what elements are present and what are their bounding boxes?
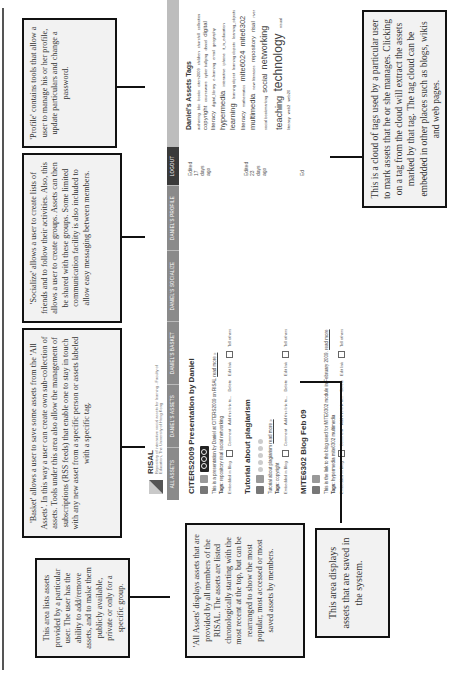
tag-cloud-item[interactable]: networking bbox=[259, 26, 269, 70]
annotation-all-assets: 'All Assets' displays assets that are pr… bbox=[185, 523, 305, 658]
nav-daniels-profile[interactable]: DANIEL'S PROFILE bbox=[167, 185, 179, 250]
comment-icon[interactable] bbox=[282, 450, 289, 457]
add-link-to-link[interactable]: Add this link to... bbox=[227, 396, 232, 425]
tell-others-link[interactable]: Tell others bbox=[227, 329, 232, 347]
edited-timestamp: Edited 23 days ago bbox=[243, 162, 267, 176]
tag-cloud-item[interactable]: repository bbox=[250, 34, 256, 62]
rating-stars[interactable] bbox=[258, 439, 263, 472]
annotation-text: 'Basket' allows a user to save some asse… bbox=[29, 336, 91, 529]
tag-cloud-item[interactable]: teaching bbox=[274, 93, 284, 130]
tag-cloud-item[interactable]: copyright bbox=[202, 104, 208, 130]
tell-others-icon[interactable] bbox=[338, 351, 345, 358]
tag-cloud-item[interactable]: e-learning bbox=[211, 62, 216, 81]
comment-link[interactable]: Comment bbox=[227, 429, 232, 446]
tag-cloud-item[interactable]: email bbox=[211, 49, 216, 60]
tell-others-icon[interactable] bbox=[226, 351, 233, 358]
document-icon bbox=[256, 475, 264, 483]
tags-links[interactable]: repository risal social networking bbox=[219, 416, 224, 481]
asset-title-link[interactable]: MITE6302 Blog Feb 09 bbox=[299, 194, 308, 494]
document-icon bbox=[200, 475, 208, 483]
tag-cloud-item[interactable]: citers2009 bbox=[196, 67, 201, 87]
tag-cloud-item[interactable]: social bookmarking bbox=[263, 95, 268, 130]
annotation-text: 'Socialize' allows a user to create list… bbox=[29, 162, 91, 314]
edit-link[interactable]: Edit link bbox=[283, 362, 288, 376]
tag-cloud-item[interactable]: hypermedia bbox=[218, 89, 227, 130]
nav-daniels-socialize[interactable]: DANIEL'S SOCIALIZE bbox=[167, 250, 179, 321]
asset-tags: Tags: repository risal social networking bbox=[219, 194, 224, 494]
description-text: Tutorial about plagiarism bbox=[268, 445, 273, 494]
main-nav: ALL ASSETS DANIEL'S ASSETS DANIEL'S BASK… bbox=[167, 0, 179, 500]
tag-cloud-item[interactable]: social bbox=[260, 71, 269, 92]
tell-others-icon[interactable] bbox=[282, 351, 289, 358]
tag-cloud-item[interactable]: daniel bbox=[203, 39, 208, 51]
tag-cloud-item[interactable]: interactive bbox=[221, 67, 226, 86]
tags-links[interactable]: copyright bbox=[275, 463, 280, 481]
asset-list: CITERS2009 Presentation by Daniel This i… bbox=[187, 194, 355, 494]
nav-daniels-assets[interactable]: DANIEL'S ASSETS bbox=[167, 384, 179, 447]
tag-cloud-item[interactable]: mathematics bbox=[241, 84, 246, 108]
edit-link[interactable]: Edit link bbox=[227, 362, 232, 376]
tag-cloud-item[interactable]: new literacies bbox=[251, 64, 256, 89]
nav-logout[interactable]: LOGOUT bbox=[167, 146, 179, 185]
tag-cloud-item[interactable]: literacy bbox=[240, 109, 246, 130]
add-link-to-link[interactable]: Add this link to... bbox=[283, 396, 288, 425]
asset-title-link[interactable]: CITERS2009 Presentation by Daniel bbox=[187, 194, 196, 494]
tag-cloud-item[interactable]: mite6024 bbox=[238, 49, 247, 82]
tell-others-link[interactable]: Tell others bbox=[339, 329, 344, 347]
read-more-link[interactable]: read more » bbox=[212, 353, 217, 377]
tag-cloud-item[interactable]: web2 bbox=[286, 104, 291, 115]
tag-cloud-item[interactable]: digital_library bbox=[211, 83, 216, 108]
tell-others-link[interactable]: Tell others bbox=[283, 329, 288, 347]
annotation-text: 'Profile' contains tools that allow a us… bbox=[29, 27, 70, 140]
edit-link[interactable]: Edit link bbox=[339, 362, 344, 376]
tag-cloud-item[interactable]: children bbox=[196, 50, 201, 65]
tag-cloud-item[interactable]: churchill bbox=[196, 32, 201, 48]
tags-label: Tags: bbox=[331, 482, 336, 494]
person-icon bbox=[256, 486, 264, 494]
delete-link[interactable]: Delete bbox=[283, 380, 288, 392]
asset-title-link[interactable]: Tutorial about plagiarism bbox=[243, 194, 252, 494]
tag-cloud-item[interactable]: mite6302 bbox=[238, 16, 247, 47]
embedded-in-blog-link[interactable]: Embedded in Blog bbox=[227, 461, 232, 494]
annotated-figure: This area lists assets provided by a par… bbox=[0, 0, 455, 678]
annotation-text: This is a cloud of tags used by a partic… bbox=[370, 19, 441, 199]
asset-icons bbox=[199, 194, 209, 494]
tag-cloud-item[interactable]: bbc bbox=[196, 103, 201, 111]
tag-cloud-item[interactable]: learning objects bbox=[231, 41, 236, 70]
tag-cloud-item[interactable]: cyber bullying bbox=[203, 53, 208, 79]
tag-cloud-item[interactable]: web20 bbox=[286, 90, 291, 102]
tag-cloud-item[interactable]: iphone bbox=[221, 52, 226, 65]
tag-cloud-item[interactable]: it_in_education bbox=[221, 23, 226, 50]
asset-item: CITERS2009 Presentation by Daniel This i… bbox=[187, 194, 233, 494]
document-icon bbox=[312, 475, 320, 483]
tag-cloud-item[interactable]: learning_objects bbox=[231, 10, 236, 39]
nav-daniels-basket[interactable]: DANIEL'S BASKET bbox=[167, 321, 179, 384]
tag-cloud-item[interactable]: river bbox=[251, 10, 256, 18]
embedded-in-blog-link[interactable]: Embedded in Blog bbox=[283, 461, 288, 494]
logo-subtitle: Repository of interactive social assets … bbox=[155, 354, 164, 474]
tag-cloud-item[interactable]: collection bbox=[196, 14, 201, 31]
tags-links[interactable]: hypermedia mite6302 multimedia bbox=[331, 415, 336, 481]
nav-all-assets[interactable]: ALL ASSETS bbox=[167, 447, 179, 500]
delete-link[interactable]: Delete bbox=[227, 380, 232, 392]
edited-timestamp: Ed bbox=[299, 170, 305, 176]
annotation-saved-area: This area displays assets that are saved… bbox=[315, 528, 390, 638]
tag-cloud-item[interactable]: geography bbox=[211, 28, 216, 47]
comment-icon[interactable] bbox=[226, 450, 233, 457]
tag-cloud-item[interactable]: learning object bbox=[231, 72, 236, 99]
asset-icons bbox=[311, 194, 321, 494]
annotation-text: 'All Assets' displays assets that are pr… bbox=[192, 534, 275, 647]
read-more-link[interactable]: read more » bbox=[268, 419, 273, 443]
tag-cloud-title: Daniel's Assets Tags bbox=[185, 5, 192, 130]
tag-cloud-item[interactable]: risal bbox=[250, 20, 256, 33]
tag-cloud-item[interactable]: learning bbox=[228, 101, 237, 130]
tag-cloud-item[interactable]: technology bbox=[271, 30, 285, 91]
comment-link[interactable]: Comment bbox=[283, 429, 288, 446]
tag-cloud-item[interactable]: courseware bbox=[203, 80, 208, 102]
read-more-link[interactable]: read more bbox=[324, 329, 329, 350]
tag-cloud-item[interactable]: authoring bbox=[196, 112, 201, 130]
asset-description: This is the link to the blog used for MI… bbox=[324, 194, 329, 494]
tag-cloud-item[interactable]: multimedia bbox=[248, 92, 257, 130]
connector-my-assets bbox=[130, 596, 170, 598]
tag-cloud-item[interactable]: books bbox=[196, 89, 201, 101]
